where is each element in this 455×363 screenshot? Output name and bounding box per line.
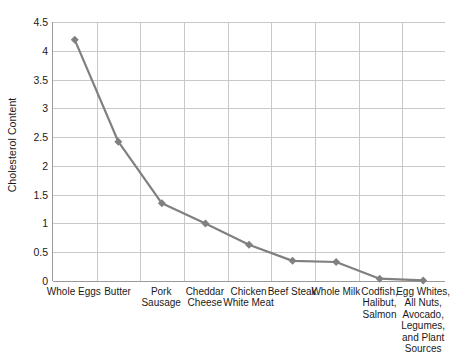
- x-tick-label: Egg Whites, All Nuts, Avocado, Legumes, …: [392, 286, 454, 354]
- y-axis-tick-labels: 00.511.522.533.544.5: [22, 0, 48, 290]
- y-tick-label: 2.5: [33, 131, 48, 143]
- data-point-marker: [71, 36, 79, 44]
- y-tick-label: 2: [42, 160, 48, 172]
- x-axis-tick-labels: Whole EggsButterPork SausageCheddar Chee…: [52, 286, 445, 363]
- y-tick-label: 3.5: [33, 74, 48, 86]
- data-point-marker: [289, 257, 297, 265]
- y-tick-label: 3: [42, 102, 48, 114]
- y-tick-label: 1: [42, 217, 48, 229]
- data-point-marker: [419, 276, 427, 284]
- cholesterol-line-chart: Cholesterol Content 00.511.522.533.544.5…: [0, 0, 455, 363]
- y-tick-label: 1.5: [33, 189, 48, 201]
- series-line-cholesterol: [53, 22, 445, 281]
- data-point-marker: [245, 241, 253, 249]
- horizontal-gridline: [53, 281, 445, 282]
- y-tick-label: 4.5: [33, 16, 48, 28]
- y-tick-label: 0.5: [33, 246, 48, 258]
- y-axis-title-text: Cholesterol Content: [6, 98, 18, 193]
- plot-area: [52, 22, 445, 281]
- data-point-marker: [332, 258, 340, 266]
- y-axis-title: Cholesterol Content: [0, 0, 24, 290]
- data-point-marker: [201, 219, 209, 227]
- y-tick-label: 4: [42, 45, 48, 57]
